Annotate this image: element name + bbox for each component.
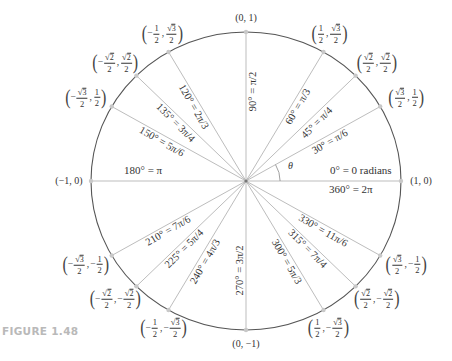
coordinate-label-225: (−√22,−√22) <box>90 289 141 310</box>
point-330 <box>378 253 382 257</box>
origin-point <box>244 179 247 182</box>
coordinate-label-135: (−√22,√22) <box>92 53 138 74</box>
point-300 <box>321 308 325 312</box>
half-turn-label: 180° = π <box>124 164 162 176</box>
coordinate-label-90: (0, 1) <box>235 13 257 23</box>
coordinate-label-210: (−√32,−12) <box>62 254 109 275</box>
point-90 <box>244 30 248 34</box>
coordinate-label-300: (12,−√32) <box>308 318 349 339</box>
zero-radians-label: 0° = 0 radians <box>330 164 392 176</box>
coordinate-label-240: (−12,−√32) <box>140 318 187 339</box>
point-150 <box>110 104 114 108</box>
point-240 <box>166 308 170 312</box>
full-turn-label: 360° = 2π <box>329 183 373 195</box>
point-270 <box>244 328 248 332</box>
theta-arc <box>276 165 281 181</box>
point-0 <box>399 179 403 183</box>
spoke-120 <box>169 52 247 181</box>
coordinate-label-180: (−1, 0) <box>55 176 82 186</box>
point-180 <box>89 179 93 183</box>
coordinate-label-120: (−12,√32) <box>142 24 183 45</box>
coordinate-label-315: (√22,−√22) <box>354 289 400 310</box>
point-135 <box>134 73 138 77</box>
coordinate-label-330: (√32,−12) <box>386 254 427 275</box>
theta-label: θ <box>288 160 293 171</box>
coordinate-label-30: (√32,12) <box>388 87 424 108</box>
coordinate-label-270: (0, −1) <box>232 339 259 349</box>
coordinate-label-45: (√22,√22) <box>357 53 397 74</box>
coordinate-label-150: (−√32,12) <box>65 87 106 108</box>
point-60 <box>321 50 325 54</box>
point-120 <box>166 50 170 54</box>
coordinate-label-60: (12,√32) <box>312 24 348 45</box>
coordinate-label-0: (1, 0) <box>410 176 432 186</box>
point-30 <box>378 104 382 108</box>
angle-label-270: 270° = 3π/2 <box>234 245 245 295</box>
figure-caption: FIGURE 1.48 <box>2 325 78 337</box>
point-210 <box>110 253 114 257</box>
unit-circle-figure: (1, 0)(√32,12)(√22,√22)(12,√32)(0, 1)(−1… <box>0 0 452 361</box>
point-45 <box>353 73 357 77</box>
angle-label-90: 90° = π/2 <box>247 72 258 111</box>
